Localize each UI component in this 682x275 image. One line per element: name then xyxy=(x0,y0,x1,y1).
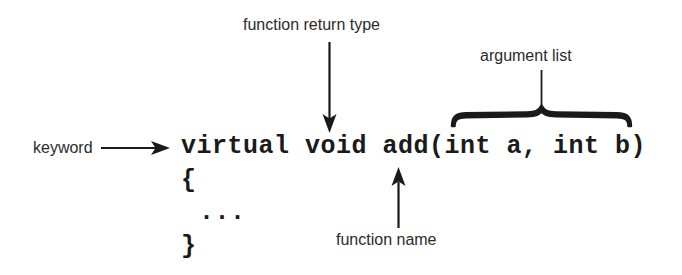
annotation-label-function-return-type: function return type xyxy=(243,17,380,33)
annotation-label-keyword: keyword xyxy=(33,140,93,156)
arrow-down-to-return-type-icon xyxy=(323,42,337,133)
arrow-right-to-keyword-icon xyxy=(101,141,170,155)
annotation-label-function-name: function name xyxy=(336,232,437,248)
code-line-close-brace: } xyxy=(181,234,197,259)
code-line-signature: virtual void add(int a, int b) xyxy=(181,134,646,159)
annotation-label-argument-list: argument list xyxy=(480,48,572,64)
code-line-ellipsis: ... xyxy=(199,200,246,225)
arrow-up-to-function-name-icon xyxy=(392,167,406,228)
code-line-open-brace: { xyxy=(181,168,197,193)
curly-brace-argument-list-icon xyxy=(452,70,631,126)
code-anatomy-diagram: function return type argument list keywo… xyxy=(0,0,682,275)
